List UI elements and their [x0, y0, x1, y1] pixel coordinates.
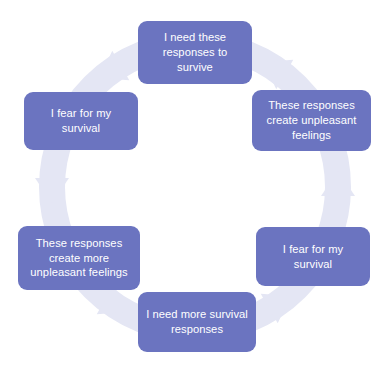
cycle-node-lower-right: I fear for my survival — [256, 227, 370, 286]
cycle-node-bottom: I need more survival responses — [138, 292, 256, 352]
cycle-node-top: I need these responses to survive — [138, 21, 252, 84]
cycle-node-label: I fear for my survival — [31, 106, 131, 136]
cycle-node-label: These responses create unpleasant feelin… — [259, 98, 364, 142]
cycle-node-label: I need more survival responses — [145, 307, 249, 337]
cycle-node-lower-left: These responses create more unpleasant f… — [18, 226, 140, 290]
cycle-node-label: These responses create more unpleasant f… — [25, 236, 133, 280]
cycle-node-label: I fear for my survival — [263, 242, 363, 272]
cycle-node-upper-right: These responses create unpleasant feelin… — [252, 90, 371, 151]
cycle-node-upper-left: I fear for my survival — [24, 92, 138, 150]
cycle-diagram: I need these responses to survive These … — [0, 0, 390, 379]
cycle-node-label: I need these responses to survive — [145, 30, 245, 74]
